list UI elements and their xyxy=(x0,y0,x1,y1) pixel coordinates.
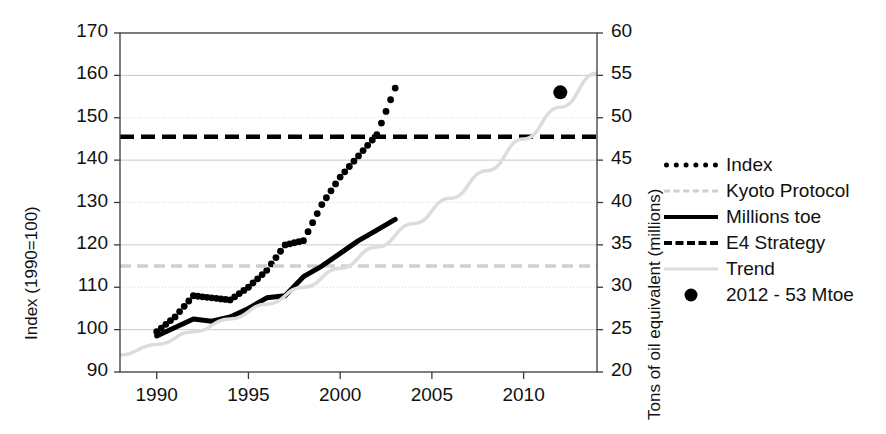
dot-marker-icon xyxy=(662,282,720,308)
x-tick-2010: 2010 xyxy=(489,384,559,406)
x-tick-1990: 1990 xyxy=(122,384,192,406)
right-tick-35: 35 xyxy=(611,232,632,254)
legend-item-label: 2012 - 53 Mtoe xyxy=(720,284,854,306)
series-trend xyxy=(120,73,597,355)
series-2012-53-mtoe xyxy=(553,85,567,99)
left-axis-title: Index (1990=100) xyxy=(22,206,42,340)
x-tick-2000: 2000 xyxy=(305,384,375,406)
left-tick-110: 110 xyxy=(48,274,108,296)
right-tick-25: 25 xyxy=(611,317,632,339)
series-millions-toe xyxy=(157,219,396,336)
legend-item-2012-53-mtoe[interactable]: 2012 - 53 Mtoe xyxy=(662,282,877,308)
right-tick-40: 40 xyxy=(611,190,632,212)
line-swatch-icon xyxy=(664,190,718,193)
right-tick-45: 45 xyxy=(611,147,632,169)
right-tick-30: 30 xyxy=(611,274,632,296)
dot-marker-icon xyxy=(685,289,698,302)
right-tick-55: 55 xyxy=(611,62,632,84)
dashed-line-icon xyxy=(662,230,720,256)
x-tick-2005: 2005 xyxy=(397,384,467,406)
legend-item-trend[interactable]: Trend xyxy=(662,256,877,282)
line-swatch-icon xyxy=(664,241,718,245)
left-tick-150: 150 xyxy=(48,105,108,127)
left-tick-120: 120 xyxy=(48,232,108,254)
left-tick-170: 170 xyxy=(48,20,108,42)
solid-line-icon xyxy=(662,204,720,230)
legend-item-label: Index xyxy=(720,154,772,176)
x-tick-1995: 1995 xyxy=(213,384,283,406)
legend-item-index[interactable]: Index xyxy=(662,152,877,178)
legend-item-kyoto-protocol[interactable]: Kyoto Protocol xyxy=(662,178,877,204)
left-tick-90: 90 xyxy=(48,359,108,381)
legend-item-e4-strategy[interactable]: E4 Strategy xyxy=(662,230,877,256)
line-swatch-icon xyxy=(664,268,718,271)
legend-item-label: Kyoto Protocol xyxy=(720,180,850,202)
chart-figure: Index (1990=100) Tons of oil equivalent … xyxy=(0,0,886,434)
chart-legend: IndexKyoto ProtocolMillions toeE4 Strate… xyxy=(662,152,877,308)
right-tick-50: 50 xyxy=(611,105,632,127)
left-tick-160: 160 xyxy=(48,62,108,84)
left-tick-100: 100 xyxy=(48,317,108,339)
light-dashed-line-icon xyxy=(662,178,720,204)
light-solid-line-icon xyxy=(662,256,720,282)
legend-item-label: E4 Strategy xyxy=(720,232,825,254)
legend-item-millions-toe[interactable]: Millions toe xyxy=(662,204,877,230)
left-tick-130: 130 xyxy=(48,190,108,212)
left-tick-140: 140 xyxy=(48,147,108,169)
legend-item-label: Trend xyxy=(720,258,775,280)
line-swatch-icon xyxy=(664,215,718,219)
right-tick-60: 60 xyxy=(611,20,632,42)
right-tick-20: 20 xyxy=(611,359,632,381)
legend-item-label: Millions toe xyxy=(720,206,821,228)
dotted-line-icon xyxy=(662,152,720,178)
line-swatch-icon xyxy=(664,163,718,168)
